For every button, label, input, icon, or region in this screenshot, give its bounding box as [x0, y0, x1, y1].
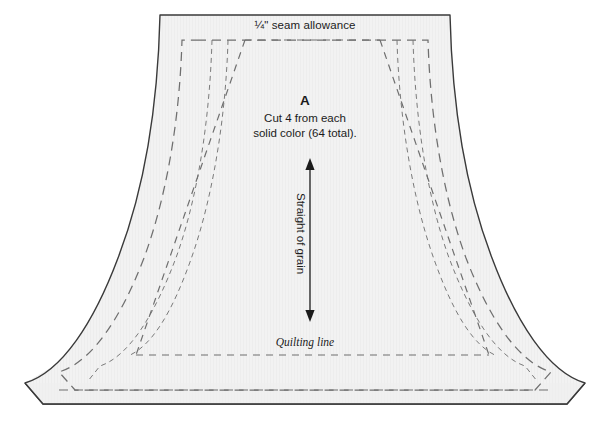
pattern-figure: ¼" seam allowance A Cut 4 from each soli…: [0, 0, 610, 426]
piece-body: [25, 15, 585, 404]
pattern-drawing: [0, 0, 610, 426]
piece-bottom-shade: [25, 383, 585, 404]
